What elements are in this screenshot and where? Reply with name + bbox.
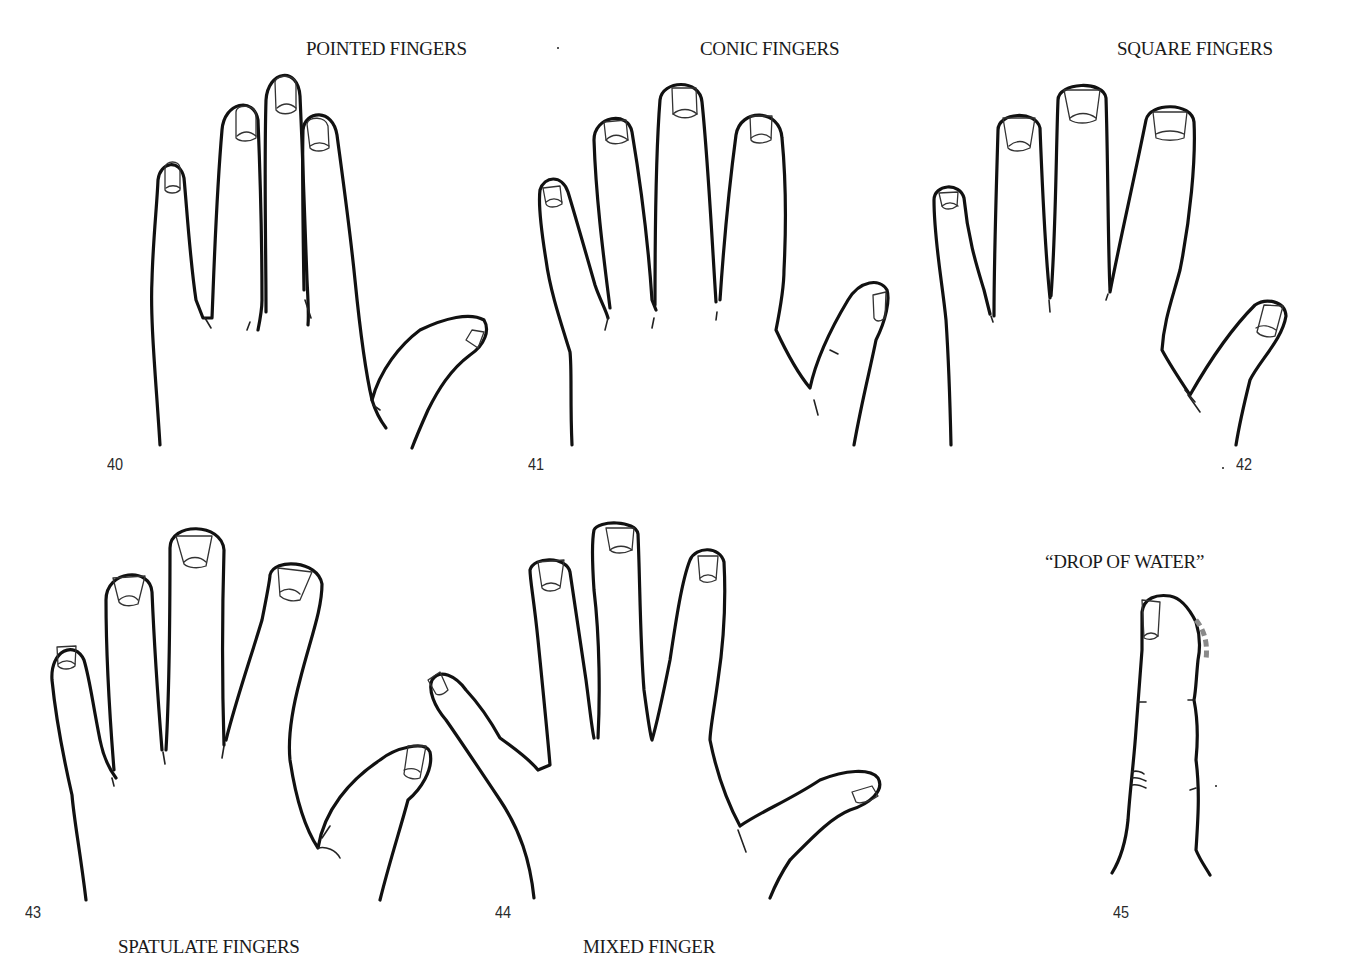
print-speck [1215, 785, 1217, 787]
print-speck [1222, 467, 1224, 469]
drop-of-water-finger-illustration [0, 0, 1350, 974]
figure-number: 45 [1113, 903, 1129, 923]
